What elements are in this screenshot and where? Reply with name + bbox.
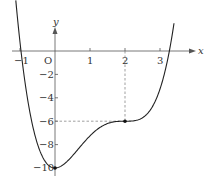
point-inflection bbox=[123, 119, 127, 123]
y-axis-label: y bbox=[52, 16, 59, 27]
x-tick-label: 3 bbox=[157, 55, 163, 66]
y-tick-label: −10 bbox=[33, 162, 54, 173]
y-tick-label: −8 bbox=[39, 139, 54, 150]
x-tick-label: 2 bbox=[122, 55, 128, 66]
x-axis-arrow-icon bbox=[189, 49, 196, 54]
y-axis-arrow-icon bbox=[53, 27, 58, 34]
x-tick-label: −1 bbox=[14, 55, 29, 66]
x-axis-label: x bbox=[198, 45, 204, 56]
function-graph: x y O −1 1 2 3 −2 −4 −6 −8 −10 bbox=[0, 0, 208, 185]
x-tick-label: 1 bbox=[87, 55, 93, 66]
y-tick-label: −4 bbox=[39, 92, 54, 103]
y-tick-label: −6 bbox=[39, 116, 54, 127]
y-tick-label: −2 bbox=[39, 69, 54, 80]
origin-label: O bbox=[44, 55, 52, 66]
